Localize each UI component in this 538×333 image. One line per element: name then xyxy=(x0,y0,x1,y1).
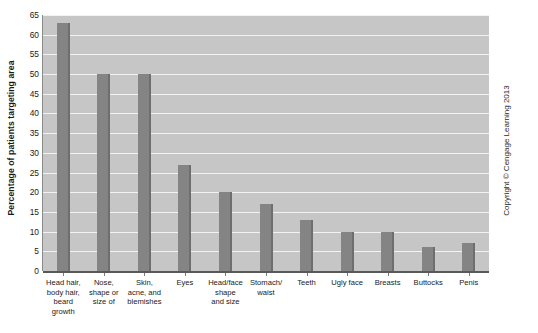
x-label-line: Stomach/ xyxy=(246,278,287,288)
x-label-line: Buttocks xyxy=(408,278,449,288)
gridline xyxy=(43,54,489,55)
x-label-line: Penis xyxy=(448,278,489,288)
x-label-line: Teeth xyxy=(286,278,327,288)
y-tick-label: 45 xyxy=(14,89,39,99)
plot-area xyxy=(43,15,489,271)
x-label-line: blemishes xyxy=(124,297,165,307)
bar xyxy=(138,74,151,271)
gridline xyxy=(43,35,489,36)
x-label-line: Ugly face xyxy=(327,278,368,288)
x-label-line: Head hair, xyxy=(43,278,84,288)
bar xyxy=(381,232,394,271)
x-tick xyxy=(104,273,105,276)
y-tick-label: 30 xyxy=(14,148,39,158)
x-tick xyxy=(347,273,348,276)
x-tick xyxy=(185,273,186,276)
x-category-label: Head/faceshapeand size xyxy=(205,278,246,307)
x-label-line: and size xyxy=(205,297,246,307)
x-tick xyxy=(307,273,308,276)
x-category-label: Stomach/waist xyxy=(246,278,287,297)
copyright-notice: Copyright © Cengage Learning 2013 xyxy=(496,0,516,300)
y-axis-tick-labels: 05101520253035404550556065 xyxy=(14,0,39,333)
x-tick xyxy=(388,273,389,276)
y-axis-line xyxy=(42,15,43,271)
x-label-line: waist xyxy=(246,288,287,298)
x-category-label: Nose,shape orsize of xyxy=(84,278,125,307)
x-label-line: body hair, xyxy=(43,288,84,298)
bar xyxy=(97,74,110,271)
x-category-label: Penis xyxy=(448,278,489,288)
x-category-label: Teeth xyxy=(286,278,327,288)
bar xyxy=(178,165,191,271)
y-tick-label: 10 xyxy=(14,227,39,237)
x-label-line: Skin, xyxy=(124,278,165,288)
bar-chart-figure: Percentage of patients targeting area 05… xyxy=(0,0,538,333)
x-tick xyxy=(144,273,145,276)
copyright-text: Copyright © Cengage Learning 2013 xyxy=(502,85,511,215)
x-label-line: size of xyxy=(84,297,125,307)
bar xyxy=(300,220,313,271)
bar xyxy=(422,247,435,271)
bar xyxy=(341,232,354,271)
x-category-label: Ugly face xyxy=(327,278,368,288)
gridline xyxy=(43,15,489,16)
x-tick xyxy=(266,273,267,276)
x-category-label: Skin,acne, andblemishes xyxy=(124,278,165,307)
x-label-line: Head/face xyxy=(205,278,246,288)
y-tick-label: 25 xyxy=(14,168,39,178)
x-category-label: Buttocks xyxy=(408,278,449,288)
x-label-line: growth xyxy=(43,307,84,317)
bar xyxy=(462,243,475,271)
y-tick-label: 0 xyxy=(14,266,39,276)
x-category-label: Breasts xyxy=(367,278,408,288)
bar xyxy=(260,204,273,271)
y-tick-label: 20 xyxy=(14,187,39,197)
x-category-label: Eyes xyxy=(165,278,206,288)
x-tick xyxy=(63,273,64,276)
x-category-label: Head hair,body hair,beardgrowth xyxy=(43,278,84,316)
x-tick xyxy=(428,273,429,276)
y-tick-label: 50 xyxy=(14,69,39,79)
x-label-line: beard xyxy=(43,297,84,307)
bar xyxy=(57,23,70,271)
y-tick-label: 5 xyxy=(14,246,39,256)
bar xyxy=(219,192,232,271)
y-tick-label: 35 xyxy=(14,128,39,138)
y-tick-label: 65 xyxy=(14,10,39,20)
x-label-line: Eyes xyxy=(165,278,206,288)
x-label-line: Breasts xyxy=(367,278,408,288)
y-tick-label: 40 xyxy=(14,108,39,118)
y-tick-label: 15 xyxy=(14,207,39,217)
x-tick xyxy=(469,273,470,276)
x-tick xyxy=(225,273,226,276)
x-label-line: Nose, xyxy=(84,278,125,288)
x-label-line: shape xyxy=(205,288,246,298)
y-tick-label: 55 xyxy=(14,49,39,59)
y-tick-label: 60 xyxy=(14,30,39,40)
x-label-line: shape or xyxy=(84,288,125,298)
x-label-line: acne, and xyxy=(124,288,165,298)
